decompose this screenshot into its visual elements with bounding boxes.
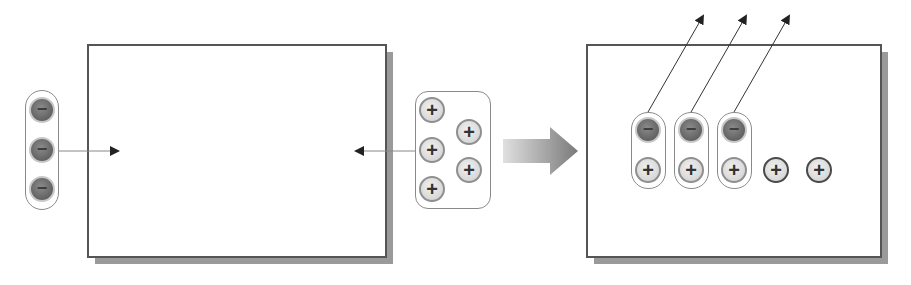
free-positive-ion: + — [763, 157, 789, 183]
exit-arrow-2 — [691, 16, 746, 112]
minus-icon: − — [37, 100, 48, 118]
plus-icon: + — [770, 160, 782, 180]
plus-icon: + — [463, 122, 475, 142]
positive-ion: + — [419, 137, 445, 163]
negative-ion: − — [29, 137, 55, 163]
positive-ion: + — [678, 157, 704, 183]
transition-arrow-icon — [503, 127, 578, 175]
plus-icon: + — [426, 179, 438, 199]
plus-icon: + — [685, 160, 697, 180]
minus-icon: − — [37, 179, 48, 197]
plus-icon: + — [426, 140, 438, 160]
plus-icon: + — [426, 100, 438, 120]
positive-ion: + — [635, 157, 661, 183]
exit-arrow-3 — [734, 16, 789, 112]
free-positive-ion: + — [806, 157, 832, 183]
positive-ion: + — [456, 157, 482, 183]
minus-icon: − — [686, 120, 697, 138]
plus-icon: + — [642, 160, 654, 180]
plus-icon: + — [728, 160, 740, 180]
plus-icon: + — [813, 160, 825, 180]
minus-icon: − — [729, 120, 740, 138]
negative-ion: − — [29, 97, 55, 123]
positive-ion: + — [721, 157, 747, 183]
negative-ion: − — [721, 117, 747, 143]
minus-icon: − — [37, 140, 48, 158]
exit-arrow-1 — [648, 16, 703, 112]
positive-ion: + — [419, 97, 445, 123]
negative-ion: − — [29, 176, 55, 202]
positive-ion: + — [419, 176, 445, 202]
plus-icon: + — [463, 160, 475, 180]
negative-ion: − — [635, 117, 661, 143]
negative-ion: − — [678, 117, 704, 143]
diagram-canvas: − − − + + + + + − + − + − + + + — [0, 0, 911, 285]
positive-ion: + — [456, 119, 482, 145]
minus-icon: − — [643, 120, 654, 138]
